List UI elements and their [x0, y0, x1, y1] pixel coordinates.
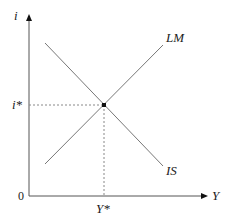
y-star-label: Y*: [96, 201, 110, 216]
equilibrium-point: [102, 103, 106, 107]
x-axis-arrow-icon: [201, 193, 208, 199]
y-axis-arrow-icon: [26, 14, 32, 21]
i-star-label: i*: [12, 97, 23, 112]
origin-label: 0: [18, 189, 24, 203]
y-axis-label: i: [14, 8, 18, 23]
is-lm-diagram: i Y 0 LM IS i* Y*: [0, 0, 226, 220]
lm-label: LM: [165, 30, 185, 45]
is-label: IS: [165, 163, 177, 178]
x-axis-label: Y: [212, 188, 221, 203]
